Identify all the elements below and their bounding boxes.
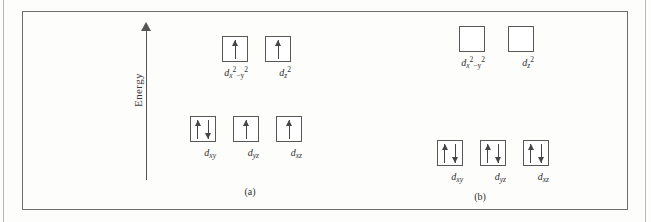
electron-arrow-up-icon [194, 120, 201, 139]
orbital-dxy: dxy [437, 140, 463, 184]
energy-axis-line [146, 27, 147, 180]
electron-arrow-down-icon [452, 144, 459, 163]
orbital-box-dxy [190, 116, 216, 142]
orbital-label-dz2: dz2 [522, 55, 534, 70]
page-edge-rule-left [3, 0, 4, 222]
orbital-label-dxy: dxy [451, 171, 463, 184]
orbital-dxz: dxz [276, 116, 302, 160]
page-edge-rule-right [645, 0, 646, 222]
panel-caption-b: (b) [460, 191, 500, 202]
orbital-dxy: dxy [190, 116, 216, 160]
orbital-label-dyz: dyz [248, 147, 259, 160]
electron-arrow-down-icon [205, 120, 212, 139]
orbital-dx2-y2: dx2−y2 [222, 36, 248, 80]
orbital-box-dx2-y2 [459, 26, 485, 52]
orbital-label-dx2-y2: dx2−y2 [224, 65, 248, 80]
orbital-dz2: dz2 [265, 36, 291, 80]
orbital-label-dx2-y2: dx2−y2 [461, 55, 485, 70]
orbital-label-dxz: dxz [291, 147, 302, 160]
orbital-box-dyz [480, 140, 506, 166]
electron-group [191, 117, 215, 141]
orbital-dxz: dxz [523, 140, 549, 184]
electron-arrow-up-icon [527, 144, 534, 163]
orbital-label-dyz: dyz [495, 171, 506, 184]
electron-group [524, 141, 548, 165]
orbital-dz2: dz2 [508, 26, 534, 70]
electron-arrow-up-icon [484, 144, 491, 163]
orbital-box-dxz [276, 116, 302, 142]
orbital-dyz: dyz [480, 140, 506, 184]
electron-group [481, 141, 505, 165]
figure-page: Energy dx2−y2dz2dxydyzdxzdx2−y2dz2dxydyz… [0, 0, 651, 222]
electron-arrow-up-icon [232, 40, 239, 59]
electron-arrow-up-icon [275, 40, 282, 59]
electron-group [234, 117, 258, 141]
orbital-box-dxy [437, 140, 463, 166]
orbital-box-dz2 [508, 26, 534, 52]
electron-arrow-up-icon [243, 120, 250, 139]
panel-caption-a: (a) [230, 186, 270, 197]
orbital-dyz: dyz [233, 116, 259, 160]
electron-group [223, 37, 247, 61]
electron-group [277, 117, 301, 141]
electron-arrow-down-icon [495, 144, 502, 163]
electron-arrow-down-icon [538, 144, 545, 163]
electron-arrow-up-icon [286, 120, 293, 139]
orbital-box-dz2 [265, 36, 291, 62]
orbital-box-dx2-y2 [222, 36, 248, 62]
orbital-box-dxz [523, 140, 549, 166]
electron-group [266, 37, 290, 61]
orbital-label-dxy: dxy [204, 147, 216, 160]
orbital-dx2-y2: dx2−y2 [459, 26, 485, 70]
orbital-box-dyz [233, 116, 259, 142]
energy-axis-label: Energy [132, 60, 144, 120]
orbital-label-dxz: dxz [538, 171, 549, 184]
orbital-label-dz2: dz2 [279, 65, 291, 80]
electron-arrow-up-icon [441, 144, 448, 163]
electron-group [438, 141, 462, 165]
